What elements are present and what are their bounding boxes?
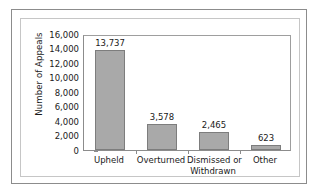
y-axis-tick-label: 14,000 — [35, 45, 79, 54]
x-axis-category-label-line: Withdrawn — [187, 166, 239, 177]
x-axis-category-label-line: Overturned — [137, 155, 186, 165]
bar — [199, 132, 229, 150]
plot-area: 13,7373,5782,465623 — [83, 35, 291, 151]
bar-group: 623 — [240, 36, 292, 150]
x-axis-category-label: Upheld — [83, 155, 135, 166]
y-axis-tick-label: 0 — [35, 147, 79, 156]
y-axis-tick-label: 4,000 — [35, 118, 79, 127]
y-axis-tick-label: 12,000 — [35, 60, 79, 69]
y-axis-tick-label: 2,000 — [35, 132, 79, 141]
y-axis-tick-label: 10,000 — [35, 74, 79, 83]
bar-value-label: 623 — [258, 134, 274, 143]
bar-group: 13,737 — [84, 36, 136, 150]
bar — [147, 124, 177, 150]
bar — [251, 145, 281, 150]
bar-group: 2,465 — [188, 36, 240, 150]
bar-value-label: 3,578 — [150, 113, 174, 122]
bar-chart: Number of Appeals 02,0004,0006,0008,0001… — [20, 18, 300, 177]
bar — [95, 50, 125, 150]
y-axis-tick-label: 6,000 — [35, 103, 79, 112]
bar-value-label: 2,465 — [202, 121, 226, 130]
bar-group: 3,578 — [136, 36, 188, 150]
x-axis-tick-mark — [188, 150, 189, 154]
x-axis-category-label: Other — [239, 155, 291, 166]
bar-value-label: 13,737 — [95, 39, 125, 48]
x-axis-tick-mark — [240, 150, 241, 154]
x-axis-category-label-line: Other — [253, 155, 277, 165]
x-axis-category-label-line: Upheld — [94, 155, 124, 165]
y-axis-tick-label: 8,000 — [35, 89, 79, 98]
y-axis-tick-labels: 02,0004,0006,0008,00010,00012,00014,0001… — [35, 35, 79, 151]
x-axis-category-label: Dismissed orWithdrawn — [187, 155, 239, 177]
x-axis-tick-labels: UpheldOverturnedDismissed orWithdrawnOth… — [83, 155, 291, 179]
x-axis-tick-mark — [136, 150, 137, 154]
y-axis-tick-label: 16,000 — [35, 31, 79, 40]
bars-layer: 13,7373,5782,465623 — [84, 36, 290, 150]
x-axis-category-label: Overturned — [135, 155, 187, 166]
x-axis-category-label-line: Dismissed or — [187, 155, 242, 165]
figure-outer-frame: Number of Appeals 02,0004,0006,0008,0001… — [11, 9, 307, 184]
